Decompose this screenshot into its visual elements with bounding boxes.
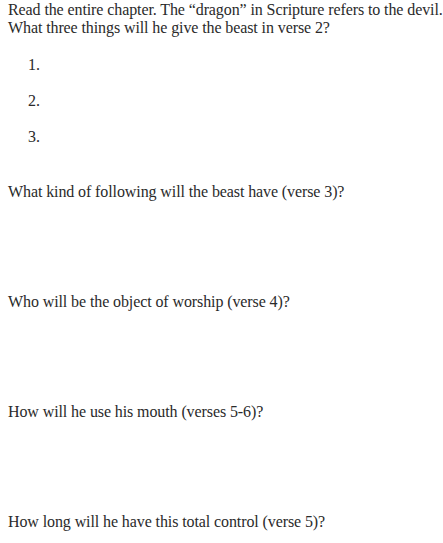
question-mouth: How will he use his mouth (verses 5-6)? — [8, 403, 263, 421]
intro-line-1: Read the entire chapter. The “dragon” in… — [8, 1, 443, 19]
answer-number-2: 2. — [28, 92, 40, 110]
intro-line-2: What three things will he give the beast… — [8, 19, 330, 37]
answer-number-3: 3. — [28, 128, 40, 146]
question-following: What kind of following will the beast ha… — [8, 183, 344, 201]
question-worship: Who will be the object of worship (verse… — [8, 293, 290, 311]
answer-number-1: 1. — [28, 56, 40, 74]
question-control: How long will he have this total control… — [8, 513, 325, 531]
